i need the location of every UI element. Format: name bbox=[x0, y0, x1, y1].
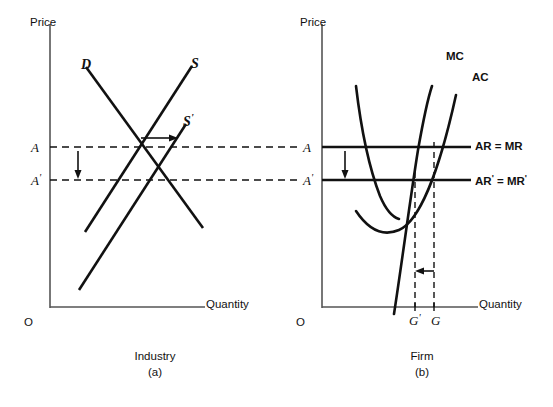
quantity-label-G-prime: G' bbox=[409, 312, 421, 329]
marginal-cost-curve bbox=[394, 86, 432, 314]
average-cost-curve-left-branch bbox=[356, 86, 399, 219]
caption-firm-name: Firm bbox=[362, 350, 482, 362]
output-decrease-arrow bbox=[415, 268, 434, 275]
price-fall-arrow-industry bbox=[75, 151, 82, 179]
demand-curve-label: D bbox=[81, 54, 91, 73]
marginal-cost-label: MC bbox=[446, 50, 464, 62]
price-label-A-prime-industry: A' bbox=[31, 172, 41, 189]
price-label-A-industry: A bbox=[31, 139, 39, 156]
price-label-A-firm: A bbox=[303, 139, 311, 156]
panel-firm bbox=[322, 24, 478, 314]
supply-curve-shifted-label: S' bbox=[183, 111, 194, 130]
x-axis-label-firm: Quantity bbox=[479, 298, 522, 310]
revenue-label-ar-prime-mr-prime: AR' = MR' bbox=[475, 173, 527, 187]
price-fall-arrow-firm bbox=[342, 151, 349, 179]
supply-curve bbox=[85, 66, 192, 232]
average-cost-label: AC bbox=[472, 71, 489, 83]
caption-firm-index: (b) bbox=[362, 366, 482, 378]
quantity-label-G: G bbox=[431, 312, 440, 329]
revenue-label-ar-mr: AR = MR bbox=[475, 140, 523, 152]
supply-curve-shifted bbox=[79, 124, 186, 290]
caption-industry-index: (a) bbox=[95, 366, 215, 378]
x-axis-label-industry: Quantity bbox=[206, 298, 249, 310]
origin-label-industry: O bbox=[24, 316, 33, 328]
y-axis-label-firm: Price bbox=[300, 16, 326, 28]
y-axis-label-industry: Price bbox=[30, 16, 56, 28]
origin-label-firm: O bbox=[296, 316, 305, 328]
price-label-A-prime-firm: A' bbox=[303, 172, 313, 189]
supply-curve-label: S bbox=[191, 53, 199, 72]
caption-industry-name: Industry bbox=[95, 350, 215, 362]
